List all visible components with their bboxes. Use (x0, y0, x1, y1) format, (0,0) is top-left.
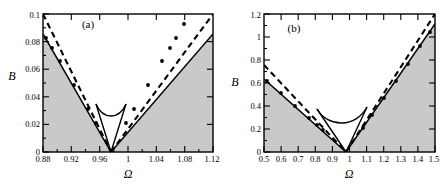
svg-text:1: 1 (347, 154, 351, 164)
svg-text:0.8: 0.8 (310, 154, 321, 164)
panel-b-unstable-region (264, 14, 435, 152)
panel-a-plot: 0.88 0.92 0.96 1 1.04 1.08 1.12 0 0.02 0… (0, 0, 222, 184)
figure-two-panel-stability-diagram: 0.88 0.92 0.96 1 1.04 1.08 1.12 0 0.02 0… (0, 0, 444, 184)
svg-text:0: 0 (36, 147, 40, 157)
svg-text:0.9: 0.9 (327, 154, 338, 164)
svg-text:0.7: 0.7 (293, 154, 304, 164)
svg-text:0.1: 0.1 (29, 10, 40, 20)
svg-text:1: 1 (257, 32, 261, 42)
svg-text:1.4: 1.4 (413, 154, 424, 164)
svg-text:0.92: 0.92 (64, 154, 79, 164)
panel-b-x-ticklabels: 0.5 0.6 0.7 0.8 0.9 1 1.1 1.2 1.3 1.4 1.… (259, 154, 440, 164)
svg-text:1.1: 1.1 (361, 154, 372, 164)
panel-b-plot: 0.5 0.6 0.7 0.8 0.9 1 1.1 1.2 1.3 1.4 1.… (222, 0, 444, 184)
svg-text:1.2: 1.2 (250, 10, 261, 20)
panel-b: 0.5 0.6 0.7 0.8 0.9 1 1.1 1.2 1.3 1.4 1.… (222, 0, 444, 184)
panel-a-x-ticklabels: 0.88 0.92 0.96 1 1.04 1.08 1.12 (36, 154, 220, 164)
panel-b-y-ticklabels: 0 0.2 0.4 0.6 0.8 1 1.2 (250, 10, 261, 157)
panel-a-yaxis-title: B (8, 69, 16, 83)
svg-text:0.2: 0.2 (250, 124, 261, 134)
panel-b-yaxis-title: B (231, 75, 239, 89)
svg-text:1: 1 (126, 154, 130, 164)
svg-text:1.08: 1.08 (177, 154, 192, 164)
panel-b-label: (b) (288, 22, 301, 35)
svg-text:0.8: 0.8 (250, 55, 261, 65)
svg-text:0.4: 0.4 (250, 101, 261, 111)
svg-text:1.04: 1.04 (149, 154, 165, 164)
svg-text:0.02: 0.02 (25, 119, 40, 129)
panel-a-xaxis-title: Ω (124, 167, 133, 181)
svg-text:1.3: 1.3 (395, 154, 406, 164)
panel-a-y-ticklabels: 0 0.02 0.04 0.06 0.08 0.1 (25, 10, 41, 157)
svg-text:1.5: 1.5 (429, 154, 440, 164)
svg-text:0.08: 0.08 (25, 37, 40, 47)
svg-text:0.96: 0.96 (92, 154, 107, 164)
panel-a-label: (a) (82, 18, 95, 31)
svg-text:0.06: 0.06 (25, 64, 40, 74)
panel-a: 0.88 0.92 0.96 1 1.04 1.08 1.12 0 0.02 0… (0, 0, 222, 184)
panel-b-xaxis-title: Ω (345, 167, 354, 181)
svg-text:0.04: 0.04 (25, 92, 41, 102)
svg-text:1.2: 1.2 (378, 154, 389, 164)
svg-text:1.12: 1.12 (205, 154, 220, 164)
svg-text:0.6: 0.6 (250, 78, 261, 88)
svg-text:0: 0 (257, 147, 261, 157)
svg-text:0.6: 0.6 (276, 154, 287, 164)
